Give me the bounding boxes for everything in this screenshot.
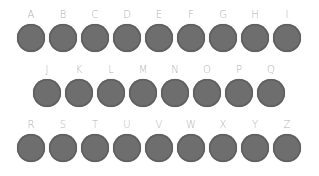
- letter-key-a[interactable]: A: [16, 9, 46, 55]
- letter-key-label: S: [60, 119, 66, 131]
- letter-key-q[interactable]: Q: [256, 64, 286, 110]
- letter-key-y[interactable]: Y: [240, 119, 270, 165]
- letter-key-label: J: [46, 64, 49, 76]
- letter-key-circle[interactable]: [177, 24, 205, 52]
- letter-key-circle[interactable]: [81, 134, 109, 162]
- letter-key-label: G: [219, 9, 227, 21]
- letter-key-m[interactable]: M: [128, 64, 158, 110]
- letter-key-i[interactable]: I: [272, 9, 302, 55]
- letter-key-circle[interactable]: [17, 134, 45, 162]
- letter-key-g[interactable]: G: [208, 9, 238, 55]
- letter-key-x[interactable]: X: [208, 119, 238, 165]
- letter-key-l[interactable]: L: [96, 64, 126, 110]
- letter-key-circle[interactable]: [17, 24, 45, 52]
- letter-key-label: L: [108, 64, 114, 76]
- letter-key-label: P: [236, 64, 242, 76]
- letter-key-label: C: [92, 9, 99, 21]
- letter-key-s[interactable]: S: [48, 119, 78, 165]
- letter-key-circle[interactable]: [241, 24, 269, 52]
- letter-key-e[interactable]: E: [144, 9, 174, 55]
- letter-key-circle[interactable]: [145, 24, 173, 52]
- letter-key-label: E: [156, 9, 162, 21]
- letter-key-b[interactable]: B: [48, 9, 78, 55]
- letter-key-label: O: [203, 64, 211, 76]
- letter-key-circle[interactable]: [49, 24, 77, 52]
- letter-key-circle[interactable]: [65, 79, 93, 107]
- letter-key-circle[interactable]: [209, 134, 237, 162]
- letter-key-label: B: [60, 9, 67, 21]
- letter-key-label: F: [188, 9, 194, 21]
- letter-key-d[interactable]: D: [112, 9, 142, 55]
- letter-key-label: R: [28, 119, 35, 131]
- letter-key-label: V: [156, 119, 163, 131]
- letter-key-t[interactable]: T: [80, 119, 110, 165]
- letter-key-label: N: [171, 64, 178, 76]
- letter-key-j[interactable]: J: [32, 64, 62, 110]
- letter-key-z[interactable]: Z: [272, 119, 302, 165]
- letter-key-label: Q: [267, 64, 275, 76]
- letter-key-circle[interactable]: [273, 134, 301, 162]
- letter-key-circle[interactable]: [161, 79, 189, 107]
- letter-key-circle[interactable]: [81, 24, 109, 52]
- letter-key-circle[interactable]: [33, 79, 61, 107]
- letter-key-label: K: [76, 64, 83, 76]
- letter-keyboard: ABCDEFGHIJKLMNOPQRSTUVWXYZ: [0, 0, 319, 176]
- letter-key-circle[interactable]: [177, 134, 205, 162]
- letter-key-circle[interactable]: [113, 24, 141, 52]
- letter-key-label: Z: [284, 119, 291, 131]
- letter-key-label: T: [92, 119, 98, 131]
- letter-key-h[interactable]: H: [240, 9, 270, 55]
- letter-key-circle[interactable]: [193, 79, 221, 107]
- letter-key-circle[interactable]: [273, 24, 301, 52]
- letter-key-u[interactable]: U: [112, 119, 142, 165]
- letter-key-label: U: [123, 119, 130, 131]
- letter-key-circle[interactable]: [113, 134, 141, 162]
- letter-key-label: H: [251, 9, 259, 21]
- letter-key-k[interactable]: K: [64, 64, 94, 110]
- letter-key-circle[interactable]: [241, 134, 269, 162]
- letter-key-circle[interactable]: [145, 134, 173, 162]
- letter-key-circle[interactable]: [49, 134, 77, 162]
- letter-key-p[interactable]: P: [224, 64, 254, 110]
- letter-key-label: M: [139, 64, 148, 76]
- letter-key-label: I: [286, 9, 289, 21]
- letter-key-label: X: [220, 119, 227, 131]
- letter-key-o[interactable]: O: [192, 64, 222, 110]
- letter-key-label: Y: [252, 119, 258, 131]
- letter-key-label: W: [186, 119, 196, 131]
- letter-key-circle[interactable]: [209, 24, 237, 52]
- letter-key-circle[interactable]: [257, 79, 285, 107]
- letter-key-f[interactable]: F: [176, 9, 206, 55]
- letter-key-r[interactable]: R: [16, 119, 46, 165]
- letter-key-c[interactable]: C: [80, 9, 110, 55]
- letter-key-w[interactable]: W: [176, 119, 206, 165]
- letter-key-v[interactable]: V: [144, 119, 174, 165]
- letter-key-circle[interactable]: [97, 79, 125, 107]
- letter-key-label: A: [28, 9, 35, 21]
- letter-key-label: D: [123, 9, 131, 21]
- letter-key-circle[interactable]: [129, 79, 157, 107]
- letter-key-circle[interactable]: [225, 79, 253, 107]
- letter-key-n[interactable]: N: [160, 64, 190, 110]
